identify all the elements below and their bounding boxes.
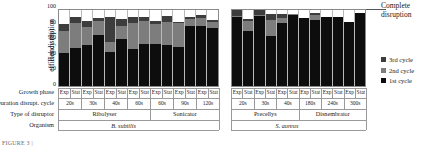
table-row: 20s30s40s180s240s300s <box>231 99 366 109</box>
growth-phase-cell: Exp <box>321 88 332 98</box>
bar <box>115 10 126 86</box>
legend-swatch <box>381 78 386 83</box>
bar-segment-first <box>82 45 92 86</box>
bar-segment-first <box>333 17 343 86</box>
duration-cell: 240s <box>321 99 344 109</box>
legend-label: 2nd cycle <box>389 67 414 74</box>
growth-phase-cell: Stat <box>208 88 220 98</box>
growth-phase-cell: Exp <box>127 88 139 98</box>
figure-caption: FIGURE 3 | <box>2 140 33 146</box>
bar <box>242 10 253 86</box>
complete-disruption-label: Complete disruption <box>381 1 445 19</box>
bar <box>195 10 206 86</box>
bar <box>69 10 80 86</box>
bar-segment-second <box>59 31 69 53</box>
row-label: Type of disruptor <box>10 111 56 118</box>
bar-segment-first <box>288 15 298 86</box>
disruptor-cell: Ribolyser <box>58 110 150 120</box>
y-tick-label: 0 <box>53 81 56 87</box>
table-edge <box>366 88 367 130</box>
bar <box>354 10 365 86</box>
bar-segment-second <box>185 19 195 26</box>
bar-segment-first <box>243 31 253 86</box>
growth-phase-cell: Exp <box>276 88 287 98</box>
table-edge <box>231 88 232 130</box>
disruptor-cell: Disnembrator <box>299 110 367 120</box>
duration-cell: 300s <box>344 99 367 109</box>
bar-group <box>59 10 218 86</box>
bar-segment-first <box>277 23 287 86</box>
disruptor-cell: Sonicator <box>150 110 219 120</box>
growth-phase-cell: Stat <box>355 88 366 98</box>
growth-phase-cell: Stat <box>242 88 253 98</box>
bar-segment-second <box>139 21 149 44</box>
disruptor-cell: Precellys <box>231 110 299 120</box>
complete-disruption-line2: disruption <box>381 10 445 19</box>
bar-segment-third <box>59 24 69 31</box>
bar-segment-second <box>116 26 126 39</box>
legend-item: 3rd cycle <box>381 56 443 63</box>
bar <box>320 10 331 86</box>
bar <box>232 10 242 86</box>
growth-phase-cell: Stat <box>265 88 276 98</box>
growth-phase-cell: Exp <box>81 88 93 98</box>
table-row: RibolyserSonicator <box>58 110 219 120</box>
bar <box>265 10 276 86</box>
bar-segment-first <box>105 52 115 86</box>
bar <box>298 10 309 86</box>
bar <box>149 10 160 86</box>
table-divider <box>58 120 219 121</box>
bar-segment-second <box>128 23 138 49</box>
bar-segment-second <box>150 24 160 44</box>
growth-phase-cell: Stat <box>332 88 343 98</box>
table-row: 20s30s40s60s60s90s120s <box>58 99 219 109</box>
organism-label: B. subtilis <box>111 122 136 129</box>
bar-segment-second <box>173 23 183 47</box>
growth-phase-cell: Exp <box>254 88 265 98</box>
chart-panel-s-aureus <box>231 9 366 87</box>
bar <box>309 10 320 86</box>
growth-phase-cell: Exp <box>173 88 185 98</box>
row-label: Duration disrupt. cycle <box>0 100 56 107</box>
bar <box>161 10 172 86</box>
bar <box>127 10 138 86</box>
duration-cell: 30s <box>81 99 104 109</box>
table-divider <box>231 120 366 121</box>
figure-root: Rel disruption efficiency (%) 0204060801… <box>0 0 445 150</box>
bar-segment-second <box>196 18 206 26</box>
legend-swatch <box>381 57 386 62</box>
bar <box>287 10 298 86</box>
y-tick-label: 60 <box>50 34 56 40</box>
bar-segment-second <box>162 22 172 45</box>
duration-cell: 120s <box>196 99 219 109</box>
bar-segment-first <box>196 26 206 86</box>
y-tick-label: 100 <box>47 3 56 9</box>
growth-phase-cell: Exp <box>299 88 310 98</box>
bar-segment-first <box>162 45 172 86</box>
duration-cell: 60s <box>150 99 173 109</box>
bar <box>81 10 92 86</box>
bar-segment-first <box>173 47 183 86</box>
bar-segment-second <box>105 42 115 53</box>
bar-segment-second <box>70 23 80 48</box>
organism-label: S. aureus <box>276 122 299 129</box>
growth-phase-cell: Stat <box>310 88 321 98</box>
bar <box>206 10 217 86</box>
bar-segment-first <box>185 26 195 86</box>
table-edge <box>219 88 220 130</box>
legend-label: 1st cycle <box>389 77 412 84</box>
bar-segment-second <box>93 21 103 35</box>
bar-segment-second <box>266 20 276 36</box>
bar-segment-first <box>207 28 217 87</box>
bar <box>276 10 287 86</box>
table-edge <box>58 88 59 130</box>
growth-phase-cell: Stat <box>70 88 82 98</box>
growth-phase-cell: Stat <box>162 88 174 98</box>
bar <box>172 10 183 86</box>
legend: 3rd cycle2nd cycle1st cycle <box>381 56 443 88</box>
legend-item: 1st cycle <box>381 77 443 84</box>
bar-segment-first <box>128 49 138 86</box>
table-row: ExpStatExpStatExpStatExpStatExpStatExpSt… <box>58 88 219 98</box>
y-tick-label: 20 <box>50 65 56 71</box>
legend-item: 2nd cycle <box>381 67 443 74</box>
